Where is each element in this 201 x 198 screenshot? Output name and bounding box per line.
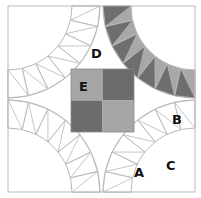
- label-a: A: [134, 166, 144, 179]
- center-patch-bottom-right: [103, 101, 135, 133]
- label-e: E: [79, 80, 88, 93]
- label-b: B: [172, 113, 182, 126]
- quilt-block-diagram: D E B C A: [0, 0, 201, 198]
- label-c: C: [166, 159, 176, 172]
- center-patch-top-right: [103, 69, 135, 101]
- label-d: D: [91, 47, 102, 60]
- center-patch-bottom-left: [71, 101, 103, 133]
